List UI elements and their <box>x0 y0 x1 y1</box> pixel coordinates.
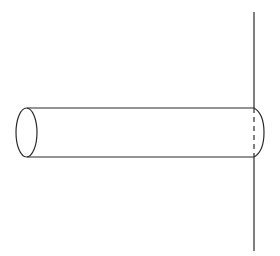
rod-right-cap-arc <box>254 108 264 157</box>
rod-left-cap <box>16 108 37 157</box>
rod-in-wall-diagram <box>0 0 280 256</box>
diagram-canvas <box>0 0 280 256</box>
